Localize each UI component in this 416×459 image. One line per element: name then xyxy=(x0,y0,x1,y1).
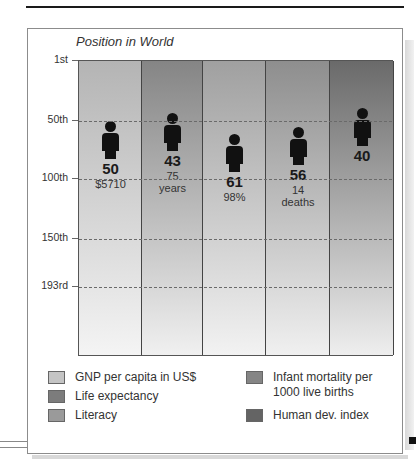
metric-value: 75years xyxy=(143,170,203,194)
legend-item-human-dev-index: Human dev. index xyxy=(246,408,369,423)
y-tick-label: 150th xyxy=(28,231,68,243)
page-rule-lines xyxy=(0,441,28,448)
end-marker xyxy=(409,437,416,444)
legend-swatch xyxy=(246,409,263,422)
legend-swatch xyxy=(48,390,65,403)
top-rule xyxy=(26,6,404,8)
rank-value: 40 xyxy=(332,147,392,164)
legend: GNP per capita in US$ Life expectancy Li… xyxy=(48,370,398,430)
column-bar xyxy=(330,61,394,355)
gridline xyxy=(79,287,392,288)
section-title-fragment xyxy=(26,0,404,4)
rank-value: 56 xyxy=(268,166,328,183)
legend-item-gnp: GNP per capita in US$ xyxy=(48,370,196,385)
gridline xyxy=(79,239,392,240)
person-icon xyxy=(353,108,371,146)
y-tick-label: 193rd xyxy=(28,279,68,291)
person-icon xyxy=(164,113,182,151)
legend-swatch xyxy=(48,371,65,384)
legend-item-life-expectancy: Life expectancy xyxy=(48,389,158,404)
box-shadow-right xyxy=(405,40,414,450)
person-icon xyxy=(102,121,120,159)
gridline xyxy=(79,121,392,122)
rank-value: 50 xyxy=(81,160,141,177)
column-bar xyxy=(266,61,330,355)
rank-value: 61 xyxy=(205,173,265,190)
column-bar xyxy=(142,61,203,355)
legend-swatch xyxy=(48,409,65,422)
gridline xyxy=(79,179,392,180)
y-tick-label: 50th xyxy=(28,113,68,125)
metric-value: 98% xyxy=(205,191,265,203)
y-tick-label: 100th xyxy=(28,171,68,183)
chart-title: Position in World xyxy=(76,34,174,49)
person-icon xyxy=(226,134,244,172)
rank-value: 43 xyxy=(143,152,203,169)
legend-item-infant-mortality: Infant mortality per 1000 live births xyxy=(246,370,372,400)
person-icon xyxy=(289,127,307,165)
y-tick-label: 1st xyxy=(28,53,68,65)
legend-item-literacy: Literacy xyxy=(48,408,117,423)
metric-value: 14deaths xyxy=(268,184,328,208)
box-shadow-bottom xyxy=(32,455,408,459)
column-bar xyxy=(203,61,266,355)
plot-area: 50$57104375years6198%5614deaths40 xyxy=(78,60,393,356)
column-bar xyxy=(79,61,142,355)
legend-swatch xyxy=(246,371,263,384)
